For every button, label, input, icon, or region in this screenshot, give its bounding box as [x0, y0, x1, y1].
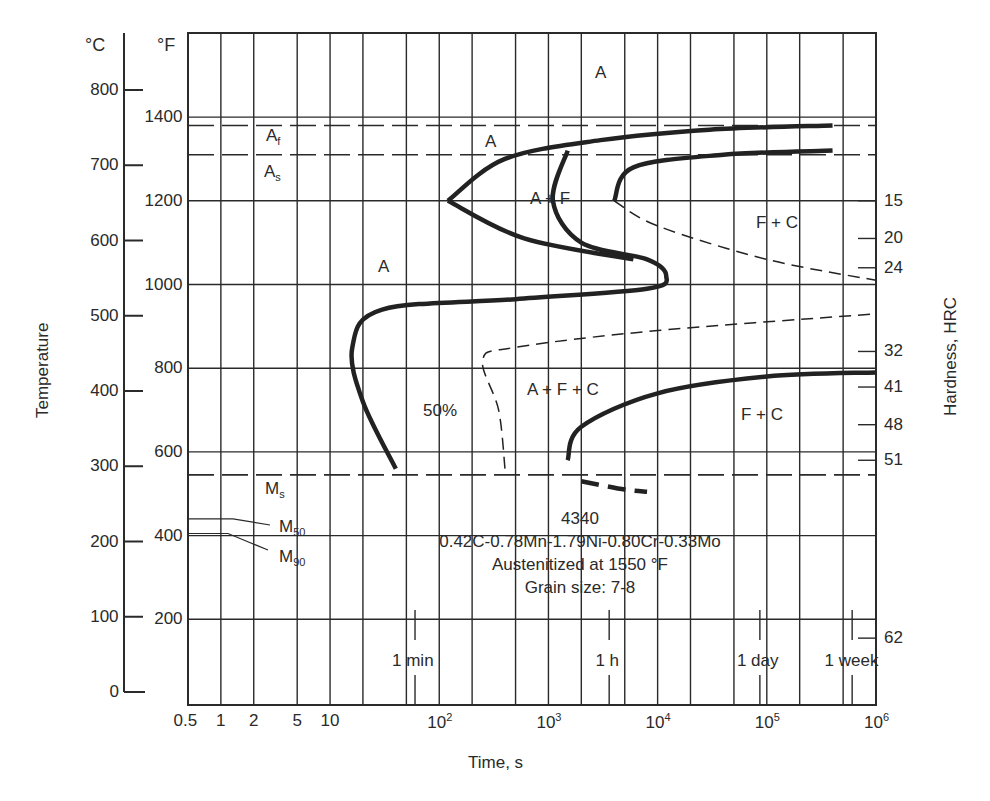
time-marker-label: 1 day: [737, 652, 779, 669]
curve-bainite-start: [568, 372, 876, 460]
region-austenite-ferrite: A + F: [530, 190, 570, 207]
celsius-unit: °C: [85, 36, 105, 54]
celsius-tick-label: 100: [90, 608, 118, 625]
austenitizing-temp: Austenitized at 1550 °F: [380, 553, 780, 576]
hardness-tick-label: 24: [884, 259, 903, 276]
time-marker-label: 1 week: [825, 652, 879, 669]
curve-50-transformed: [614, 201, 876, 281]
fahrenheit-unit: °F: [157, 36, 175, 54]
hardness-tick-label: 15: [884, 192, 903, 209]
region-austenite-low: A: [378, 258, 389, 275]
hardness-tick-label: 51: [884, 451, 903, 468]
time-tick-label: 1: [216, 712, 225, 729]
celsius-tick-label: 400: [90, 382, 118, 399]
celsius-tick-label: 700: [90, 156, 118, 173]
time-tick-label: 2: [249, 712, 258, 729]
steel-composition: 0.42C-0.78Mn-1.79Ni-0.80Cr-0.33Mo: [380, 530, 780, 553]
transformation-curves: [352, 125, 876, 491]
label-af: Af: [266, 127, 280, 147]
annotation-50-percent: 50%: [423, 402, 457, 419]
fahrenheit-tick-label: 1000: [145, 276, 183, 293]
time-tick-label: 10: [320, 712, 339, 729]
celsius-tick-label: 200: [90, 533, 118, 550]
hardness-tick-label: 20: [884, 229, 903, 246]
time-tick-label: 0.5: [174, 712, 198, 729]
region-ferrite-carbide-lower: F + C: [741, 406, 783, 423]
curve-martensite-region-dashed-: [581, 481, 647, 491]
time-marker-label: 1 h: [595, 652, 619, 669]
celsius-tick-label: 500: [90, 307, 118, 324]
time-tick-label: 103: [536, 712, 561, 731]
time-marker-label: 1 min: [392, 652, 434, 669]
fahrenheit-tick-label: 800: [154, 359, 182, 376]
fahrenheit-tick-label: 1200: [145, 192, 183, 209]
steel-grade: 4340: [380, 507, 780, 530]
y-axis-label: Temperature: [34, 323, 51, 418]
region-austenite-ferrite-carbide: A + F + C: [527, 381, 599, 398]
x-axis-label: Time, s: [468, 754, 523, 771]
curve-transformation-start-pearlite-: [352, 151, 667, 469]
label-as: As: [264, 163, 281, 183]
fahrenheit-tick-label: 400: [154, 527, 182, 544]
fahrenheit-tick-label: 200: [154, 610, 182, 627]
celsius-tick-label: 600: [90, 232, 118, 249]
hardness-tick-label: 32: [884, 342, 903, 359]
temperature-axes: [124, 33, 876, 705]
celsius-tick-label: 800: [90, 81, 118, 98]
time-tick-label: 106: [864, 712, 889, 731]
label-m50: M50: [279, 518, 305, 538]
time-tick-label: 105: [755, 712, 780, 731]
celsius-tick-label: 0: [109, 683, 118, 700]
fahrenheit-tick-label: 1400: [145, 108, 183, 125]
region-austenite-top: A: [595, 64, 606, 81]
region-austenite-mid: A: [485, 133, 496, 150]
vertical-grid: [221, 33, 843, 705]
hardness-tick-label: 41: [884, 378, 903, 395]
fahrenheit-tick-label: 600: [154, 443, 182, 460]
hardness-tick-label: 62: [884, 629, 903, 646]
label-ms: Ms: [265, 480, 285, 500]
label-m90: M90: [279, 548, 305, 568]
hardness-tick-label: 48: [884, 416, 903, 433]
steel-info: 4340 0.42C-0.78Mn-1.79Ni-0.80Cr-0.33Mo A…: [380, 507, 780, 599]
y-axis-right-label: Hardness, HRC: [942, 297, 959, 416]
plot-frame: [188, 33, 876, 705]
celsius-tick-label: 300: [90, 457, 118, 474]
region-ferrite-carbide-upper: F + C: [756, 214, 798, 231]
grain-size: Grain size: 7-8: [380, 576, 780, 599]
time-tick-label: 5: [292, 712, 301, 729]
time-tick-label: 104: [646, 712, 671, 731]
time-tick-label: 102: [427, 712, 452, 731]
